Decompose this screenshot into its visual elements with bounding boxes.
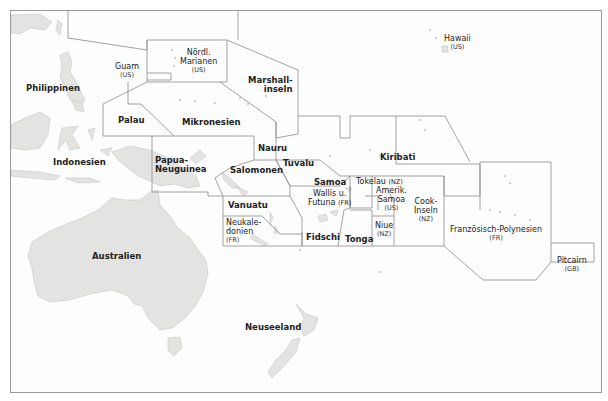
label-palau: Palau (118, 116, 144, 125)
label-papua-neuguinea: Papua-Neuguinea (155, 156, 207, 174)
label-samoa: Samoa (314, 178, 346, 187)
label-nauru: Nauru (258, 144, 287, 153)
oceania-map: Hawaii(US) Guam(US) Nördl.Marianen(US) M… (0, 0, 608, 401)
label-noerdl-marianen: Nördl.Marianen(US) (180, 48, 217, 75)
label-neukaledonien: Neukale-donien(FR) (226, 218, 261, 245)
label-philippinen: Philippinen (26, 84, 80, 93)
label-marshallinseln: Marshall-inseln (248, 76, 293, 94)
label-mikronesien: Mikronesien (182, 118, 241, 127)
label-tonga: Tonga (345, 235, 373, 244)
label-pitcairn: Pitcairn(GB) (557, 256, 587, 274)
label-vanuatu: Vanuatu (228, 201, 268, 210)
label-kiribati: Kiribati (380, 153, 415, 162)
label-salomonen: Salomonen (230, 166, 283, 175)
borneo-landmass (11, 112, 50, 150)
map-shapes (0, 0, 608, 401)
asia-landmass (11, 14, 52, 34)
label-tuvalu: Tuvalu (283, 159, 314, 168)
label-niue: Niue(NZ) (375, 221, 393, 239)
label-franzoesisch-polynesien: Französisch-Polynesien(FR) (450, 225, 542, 243)
label-indonesien: Indonesien (53, 158, 106, 167)
label-australien: Australien (92, 252, 141, 261)
label-amerik-samoa: Amerik.Samoa(US) (376, 186, 407, 213)
label-neuseeland: Neuseeland (245, 323, 301, 332)
label-cook-inseln: Cook-Inseln(NZ) (414, 197, 438, 224)
label-hawaii: Hawaii(US) (444, 34, 471, 52)
label-guam: Guam(US) (115, 62, 139, 80)
label-fidschi: Fidschi (306, 233, 340, 242)
philippines-landmass (60, 52, 85, 108)
label-wallis-futuna: Wallis u.Futuna (FR) (308, 189, 351, 208)
